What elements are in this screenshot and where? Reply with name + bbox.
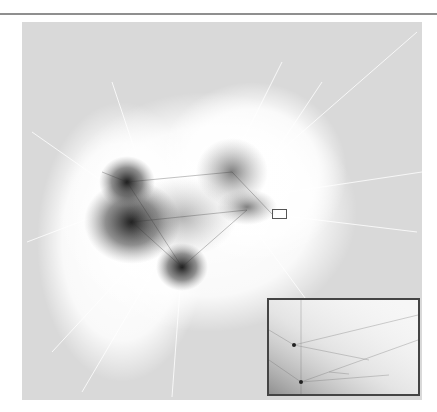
inset-graph [269,300,418,394]
network-graph-panel [22,22,422,400]
zoom-selection-box [272,209,287,219]
top-rule [0,13,437,15]
magnified-inset [267,298,420,396]
